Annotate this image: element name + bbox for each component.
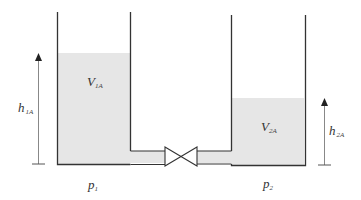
- tank2-height-label: h2A: [329, 123, 345, 139]
- tank1-liquid: [58, 53, 130, 164]
- height-arrow-tank1: [32, 53, 45, 164]
- tank1-height-label: h1A: [18, 100, 34, 116]
- tank1-pressure-label: p1: [87, 177, 98, 193]
- tank2-pressure-label: p2: [262, 176, 274, 192]
- valve-icon: [165, 147, 197, 166]
- two-tank-diagram: V1A h1A p1 V2A h2A p2: [0, 0, 361, 200]
- pipe-liquid-right: [197, 151, 232, 163]
- pipe-liquid-left: [130, 151, 165, 163]
